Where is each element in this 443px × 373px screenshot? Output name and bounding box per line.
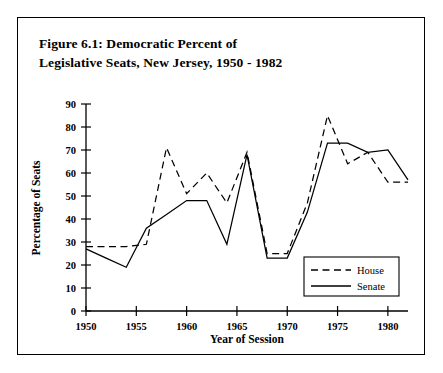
x-axis: 1950195519601965197019751980 xyxy=(76,306,409,332)
series-line-house xyxy=(86,116,408,254)
y-tick-label: 20 xyxy=(66,260,77,271)
y-tick-label: 80 xyxy=(66,122,77,133)
x-tick-label: 1965 xyxy=(226,321,247,332)
y-axis: 0102030405060708090 xyxy=(66,99,92,317)
x-axis-title: Year of Session xyxy=(210,333,285,345)
figure-frame: Figure 6.1: Democratic Percent of Legisl… xyxy=(17,17,425,355)
line-chart-svg: 0102030405060708090 19501955196019651970… xyxy=(18,18,426,356)
y-tick-label: 30 xyxy=(66,237,77,248)
x-axis-tick-labels: 1950195519601965197019751980 xyxy=(76,321,399,332)
x-tick-label: 1970 xyxy=(277,321,298,332)
y-tick-label: 50 xyxy=(66,191,77,202)
x-tick-label: 1980 xyxy=(377,321,398,332)
x-tick-label: 1955 xyxy=(126,321,147,332)
y-axis-tick-labels: 0102030405060708090 xyxy=(66,99,77,317)
legend-label-senate: Senate xyxy=(357,281,385,292)
y-tick-label: 60 xyxy=(66,168,77,179)
legend-label-house: House xyxy=(357,265,384,276)
y-axis-title: Percentage of Seats xyxy=(30,160,43,255)
x-tick-label: 1975 xyxy=(327,321,348,332)
chart-plot-area: 0102030405060708090 19501955196019651970… xyxy=(18,18,426,356)
y-tick-label: 0 xyxy=(71,306,76,317)
y-tick-label: 70 xyxy=(66,145,77,156)
x-tick-label: 1960 xyxy=(176,321,197,332)
y-tick-label: 90 xyxy=(66,99,77,110)
y-tick-label: 10 xyxy=(66,283,77,294)
x-tick-label: 1950 xyxy=(76,321,97,332)
chart-legend: House Senate xyxy=(304,257,399,296)
y-tick-label: 40 xyxy=(66,214,77,225)
series-line-senate xyxy=(86,143,408,267)
